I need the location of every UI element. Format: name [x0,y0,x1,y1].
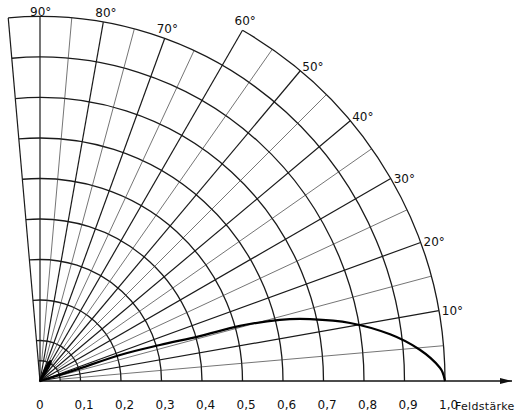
axis-arrow-icon [500,378,512,384]
tick-label-0: 0 [36,398,44,412]
radial-tick-labels: 00,10,20,30,40,50,60,70,80,91,0 [36,398,458,412]
tick-label-2: 0,2 [115,398,134,412]
angle-label-40: 40° [352,110,373,124]
grid-ray-35deg [57,149,372,370]
grid-arc-0.8 [12,57,364,381]
angle-label-50: 50° [302,60,323,74]
tick-label-7: 0,7 [318,398,337,412]
angle-label-60: 60° [235,14,256,28]
grid-ray-25deg [58,210,407,373]
angular-grid-lines [8,17,443,382]
polar-field-strength-chart: 00,10,20,30,40,50,60,70,80,91,0 10°20°30… [0,0,522,418]
angle-labels: 10°20°30°40°50°60°70°80°90° [30,5,463,318]
angle-label-20: 20° [424,235,445,249]
tick-label-4: 0,4 [196,398,215,412]
angle-label-30: 30° [394,172,415,186]
angle-label-10: 10° [442,304,463,318]
grid-arc-0.7 [15,98,323,381]
tick-label-3: 0,3 [156,398,175,412]
grid-ray-55deg [52,49,273,364]
angle-label-90: 90° [30,5,51,19]
feldstaerke-axis [40,378,512,384]
radial-grid-arcs [8,17,445,382]
tick-label-8: 0,8 [358,398,377,412]
grid-ray-95deg [8,18,40,381]
angle-label-80: 80° [95,6,116,20]
tick-label-6: 0,6 [277,398,296,412]
grid-ray-5deg [60,346,443,380]
axis-title-feldstaerke: Feldstärke [455,400,515,413]
angle-label-70: 70° [157,22,178,36]
grid-arc-0.9 [8,17,404,382]
tick-label-9: 0,9 [399,398,418,412]
grid-ray-85deg [42,18,72,361]
tick-label-5: 0,5 [237,398,256,412]
tick-label-1: 0,1 [75,398,94,412]
